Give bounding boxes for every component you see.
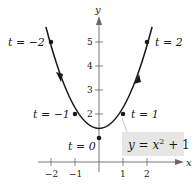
x-tick-label: 1	[120, 169, 126, 179]
y-tick-label: 5	[87, 37, 93, 47]
point-t-minus-1	[73, 112, 78, 117]
y-axis-label: y	[94, 4, 101, 15]
x-ticks: −2 −1 1 2	[45, 158, 150, 179]
point-t-minus-2	[49, 40, 54, 45]
y-tick-label: 3	[87, 85, 93, 95]
y-tick-label: 4	[87, 61, 93, 71]
point-t-1	[121, 112, 126, 117]
x-tick-label: 2	[144, 169, 150, 179]
x-tick-label: −2	[45, 169, 58, 179]
x-axis-arrow-icon	[175, 159, 184, 165]
label-t-minus-1: t = −1	[33, 108, 70, 121]
label-t-minus-2: t = −2	[8, 36, 45, 49]
label-t-1: t = 1	[131, 108, 159, 121]
parametric-graph: x y −2 −1 1 2 2 3 4 5	[0, 0, 194, 189]
y-ticks: 2 3 4 5	[87, 37, 103, 119]
x-tick-label: −1	[69, 169, 82, 179]
equation-text: y = x2 + 1	[127, 137, 190, 152]
graph-canvas: x y −2 −1 1 2 2 3 4 5	[0, 0, 194, 189]
point-t-2	[145, 40, 150, 45]
label-t-0: t = 0	[68, 140, 96, 153]
y-tick-label: 2	[87, 109, 93, 119]
label-t-2: t = 2	[155, 36, 183, 49]
x-axis-label: x	[186, 157, 192, 168]
y-axis-arrow-icon	[96, 16, 102, 25]
leader-line	[122, 118, 127, 132]
point-t-0	[97, 136, 102, 141]
equation-label-box: y = x2 + 1	[122, 118, 190, 156]
